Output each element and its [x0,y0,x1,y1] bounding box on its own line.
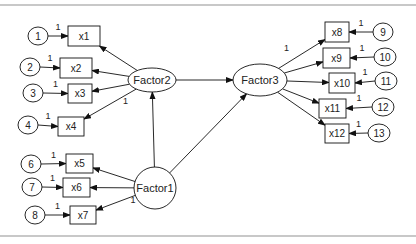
error-label: 9 [380,27,386,38]
error-arrow-13 [349,133,368,134]
error-weight-label: 1 [50,173,55,183]
error-label: 11 [381,76,392,87]
loading-arrow-x5 [93,168,135,182]
loading-label: 1 [284,43,289,53]
observed-label: x10 [334,78,351,89]
latent-label: Factor2 [133,74,170,86]
loading-label: 1 [123,96,128,106]
error-arrow-4 [38,125,58,127]
path-diagram: 11x121x231x341x4161x571x681x7191x81101x9… [0,0,416,244]
loading-arrow-x9 [284,62,323,73]
error-label: 13 [373,128,385,139]
error-arrow-12 [346,107,372,109]
error-arrow-3 [43,93,68,94]
loading-arrow-x11 [282,89,319,103]
error-label: 2 [27,62,33,73]
error-weight-label: 1 [45,111,50,121]
observed-label: x6 [71,182,82,193]
error-weight-label: 1 [53,79,58,89]
error-label: 8 [32,210,38,221]
loading-arrow-x3 [92,84,130,91]
error-weight-label: 1 [51,150,56,160]
error-label: 7 [29,182,35,193]
error-weight-label: 1 [356,119,361,129]
error-label: 3 [30,88,36,99]
error-weight-label: 1 [55,22,60,32]
error-arrow-2 [40,67,60,68]
observed-label: x1 [79,31,90,42]
observed-label: x11 [325,103,341,114]
error-label: 6 [28,159,34,170]
loading-arrow-x12 [278,92,325,125]
latent-label: Factor1 [136,182,173,194]
observed-label: x8 [332,27,343,38]
observed-label: x9 [331,53,342,64]
observed-label: x5 [74,158,85,169]
error-label: 1 [35,31,41,42]
loading-arrow-x1 [99,46,137,71]
observed-label: x7 [78,210,89,221]
error-weight-label: 1 [358,18,363,28]
observed-label: x3 [75,88,86,99]
error-weight-label: 1 [356,93,361,103]
error-weight-label: 1 [47,53,52,63]
error-arrow-10 [350,57,374,58]
observed-label: x12 [329,128,346,139]
observed-label: x2 [71,63,82,74]
path-F1-F3 [170,94,247,173]
latent-label: Factor3 [241,74,278,86]
error-weight-label: 1 [359,43,364,53]
error-arrow-7 [42,187,63,188]
loading-label: 1 [130,195,135,205]
error-arrow-6 [41,164,66,165]
loading-arrow-x7 [96,195,135,210]
error-arrow-11 [355,81,375,83]
error-label: 4 [25,120,31,131]
loading-arrow-x2 [92,71,129,77]
error-label: 10 [379,52,391,63]
error-weight-label: 1 [55,201,60,211]
error-weight-label: 1 [362,67,367,77]
observed-label: x4 [66,121,77,132]
error-label: 12 [377,102,389,113]
path-F1-F2 [152,92,154,167]
loading-arrow-x10 [287,81,329,83]
